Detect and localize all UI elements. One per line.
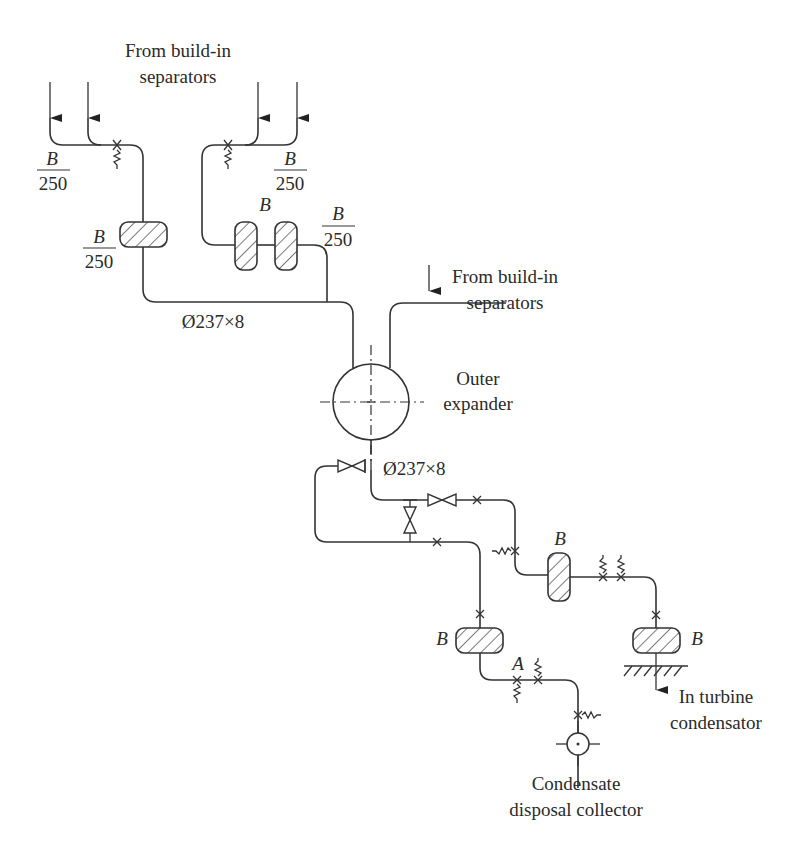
top-source-label: From build-in separators [125, 40, 232, 87]
filter-icon [456, 628, 503, 653]
svg-text:From build-in: From build-in [452, 266, 559, 287]
svg-text:250: 250 [324, 229, 353, 250]
drain-network: Ø237×8 [315, 440, 763, 820]
svg-text:B: B [332, 203, 344, 224]
svg-text:In turbine: In turbine [679, 686, 753, 707]
svg-text:B: B [46, 148, 58, 169]
svg-text:From build-in: From build-in [125, 40, 232, 61]
svg-text:separators: separators [466, 292, 543, 313]
svg-text:separators: separators [139, 66, 216, 87]
filter-icon [120, 222, 167, 247]
svg-text:Condensate: Condensate [532, 773, 621, 794]
main-header-pipe [327, 302, 353, 368]
lower-left-filter-label: B [436, 628, 448, 649]
filter-icon [235, 222, 257, 270]
svg-text:250: 250 [276, 173, 305, 194]
header-size-top: Ø237×8 [182, 311, 244, 332]
gate-valve-icon [338, 459, 365, 473]
twin-filters-label: B [259, 194, 271, 215]
fraction-left-top: B 250 [37, 148, 70, 194]
orifice-x-icon [433, 538, 484, 618]
turbine-label: In turbine condensator [670, 686, 762, 733]
svg-text:condensator: condensator [670, 712, 762, 733]
collector-label: Condensate disposal collector [509, 773, 643, 820]
fraction-left-filter: B 250 [83, 226, 116, 272]
filter-icon [548, 553, 570, 601]
header-size-bottom: Ø237×8 [383, 458, 445, 479]
right-source-label: From build-in separators [452, 266, 559, 313]
piping-diagram: From build-in separators B 250 B 250 [0, 0, 809, 854]
svg-text:B: B [284, 148, 296, 169]
expander-label: Outer expander [443, 368, 513, 414]
filter-icon [275, 222, 297, 270]
collector-symbol [556, 721, 600, 766]
svg-text:expander: expander [443, 393, 513, 414]
filter-icon [633, 628, 680, 653]
svg-text:Outer: Outer [456, 368, 500, 389]
svg-text:250: 250 [39, 173, 68, 194]
mid-filter-label: B [554, 528, 566, 549]
lower-right-filter-label: B [691, 628, 703, 649]
fraction-right-top: B 250 [274, 148, 307, 194]
right-inflow-group [202, 82, 327, 302]
svg-text:250: 250 [85, 251, 114, 272]
svg-text:disposal collector: disposal collector [509, 799, 643, 820]
fraction-right-after-filters: B 250 [322, 203, 355, 250]
gate-valve-icon [428, 494, 456, 506]
gate-valve-icon [403, 500, 417, 542]
outer-expander [320, 345, 424, 462]
svg-text:B: B [93, 226, 105, 247]
valve-a-label: A [510, 653, 524, 674]
